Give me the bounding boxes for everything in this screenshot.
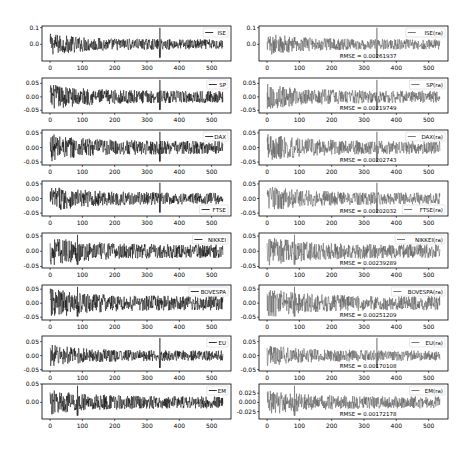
x-tick-label: 100 [77,271,89,278]
x-tick-label: 500 [423,271,435,278]
x-tick-label: 400 [174,219,186,226]
subplot-bovespara: 01002003004005000.050.00-0.05BOVESPA(ra)… [240,285,448,330]
axes-frame [42,336,231,371]
x-tick-label: 0 [265,271,269,278]
x-tick-label: 100 [77,374,89,381]
x-tick-label: 300 [141,219,153,226]
rmse-annotation: RMSE = 0.00239289 [340,260,397,266]
x-tick-label: 400 [391,64,403,71]
figure-canvas: 01002003004005000.10.0ISE010020030040050… [0,0,475,450]
legend-label: DAX(ra) [421,134,443,140]
legend-label: EM(ra) [425,388,443,394]
legend: BOVESPA(ra) [391,287,445,296]
legend: BOVESPA [189,287,228,296]
y-tick-label: 0.00 [26,247,40,254]
x-tick-label: 500 [423,219,435,226]
data-line [50,28,223,58]
x-tick-label: 200 [109,422,121,429]
legend-label: ISE [217,30,226,36]
x-tick-label: 300 [358,116,370,123]
y-tick-label: 0.05 [243,285,257,292]
rmse-annotation: RMSE = 0.00261937 [340,53,397,59]
subplot-sp: 01002003004005000.050.00-0.05SP [23,78,231,123]
legend: NIKKEI(ra) [395,235,445,244]
x-tick-label: 500 [423,116,435,123]
y-tick-label: 0.05 [26,79,40,86]
x-tick-label: 100 [77,422,89,429]
x-tick-label: 0 [48,323,52,330]
legend: DAX(ra) [406,132,445,141]
x-tick-label: 400 [391,374,403,381]
data-line [50,338,223,368]
x-tick-label: 200 [326,116,338,123]
x-tick-label: 400 [391,323,403,330]
legend-label: EU(ra) [426,340,443,346]
x-tick-label: 400 [391,219,403,226]
y-tick-label: 0.1 [246,24,256,31]
legend-label: SP(ra) [426,82,443,88]
y-tick-label: 0.00 [243,247,257,254]
y-tick-label: 0.00 [26,299,40,306]
x-tick-label: 400 [174,422,186,429]
legend: EU [207,338,228,347]
subplot-bovespa: 01002003004005000.050.00-0.05BOVESPA [23,285,231,330]
x-tick-label: 0 [48,422,52,429]
subplot-dax: 01002003004005000.050.00-0.05DAX [23,129,231,175]
x-tick-label: 200 [109,116,121,123]
x-tick-label: 500 [206,64,218,71]
subplot-eu: 01002003004005000.050.00-0.05EU [23,336,231,381]
y-tick-label: 0.05 [243,232,257,239]
x-tick-label: 500 [423,64,435,71]
x-tick-label: 200 [326,168,338,175]
subplot-eura: 01002003004005000.050.00-0.05EU(ra)RMSE … [240,336,448,381]
subplot-em: 01002003004005000.050.00EM [26,380,231,429]
x-tick-label: 200 [326,64,338,71]
y-tick-label: -0.05 [240,262,256,269]
x-tick-label: 500 [206,219,218,226]
x-tick-label: 300 [141,323,153,330]
legend: EM(ra) [409,386,445,395]
legend: ISE [203,28,228,37]
y-tick-label: 0.00 [26,352,40,359]
x-tick-label: 400 [174,64,186,71]
y-tick-label: 0.0 [29,40,39,47]
y-tick-label: 0.00 [26,398,40,405]
x-tick-label: 200 [326,219,338,226]
x-tick-label: 0 [265,64,269,71]
rmse-annotation: RMSE = 0.00202032 [340,208,397,214]
x-tick-label: 100 [77,168,89,175]
x-tick-label: 400 [391,116,403,123]
legend-label: NIKKEI [208,237,226,243]
y-tick-label: 0.00 [26,144,40,151]
x-tick-label: 0 [265,219,269,226]
x-tick-label: 0 [48,219,52,226]
x-tick-label: 400 [174,374,186,381]
y-tick-label: 0.00 [26,93,40,100]
x-tick-label: 0 [48,64,52,71]
x-tick-label: 100 [294,219,306,226]
legend: EM [207,386,228,395]
legend-label: FTSE(ra) [420,207,443,213]
x-tick-label: 200 [109,64,121,71]
x-tick-label: 100 [294,422,306,429]
y-tick-label: 0.000 [239,398,256,405]
x-tick-label: 500 [423,323,435,330]
y-tick-label: 0.00 [26,195,40,202]
x-tick-label: 100 [294,323,306,330]
x-tick-label: 200 [326,422,338,429]
x-tick-label: 0 [265,422,269,429]
x-tick-label: 100 [77,116,89,123]
legend: NIKKEI [192,235,228,244]
y-tick-label: -0.05 [23,366,39,373]
x-tick-label: 300 [358,64,370,71]
x-tick-label: 200 [109,219,121,226]
legend-label: ISE(ra) [424,30,443,36]
x-tick-label: 400 [174,271,186,278]
subplot-spra: 01002003004005000.050.00-0.05SP(ra)RMSE … [240,78,448,123]
y-tick-label: 0.05 [26,232,40,239]
legend-label: EU [218,340,226,346]
legend-label: SP [219,82,226,88]
x-tick-label: 200 [326,374,338,381]
data-line [50,132,223,162]
x-tick-label: 300 [358,219,370,226]
